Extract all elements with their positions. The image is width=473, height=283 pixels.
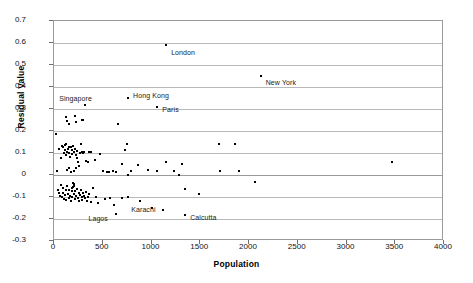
y-tick-label: 0.7 xyxy=(0,16,26,24)
y-tick-mark xyxy=(49,174,53,175)
y-tick-label: 0.3 xyxy=(0,104,26,112)
point-label-singapore: Singapore xyxy=(59,95,92,103)
data-point xyxy=(74,198,76,200)
x-axis-title: Population xyxy=(0,259,473,269)
x-tick-mark xyxy=(53,240,54,244)
data-point xyxy=(108,171,110,173)
x-tick-label: 3500 xyxy=(374,243,414,251)
data-point xyxy=(68,167,70,169)
data-point xyxy=(147,169,149,171)
y-tick-label: 0 xyxy=(0,170,26,178)
data-point xyxy=(64,194,66,196)
data-point xyxy=(90,151,92,153)
data-point xyxy=(86,200,88,202)
data-point xyxy=(92,187,94,189)
data-point xyxy=(78,200,80,202)
y-tick-label: -0.1 xyxy=(0,192,26,200)
gridline-y xyxy=(54,87,442,88)
data-point xyxy=(81,199,83,201)
gridline-y xyxy=(54,153,442,154)
x-tick-mark xyxy=(346,240,347,244)
data-point xyxy=(90,201,92,203)
x-tick-mark xyxy=(151,240,152,244)
data-point xyxy=(165,44,167,46)
y-tick-mark xyxy=(49,86,53,87)
data-point xyxy=(74,190,76,192)
x-tick-mark xyxy=(248,240,249,244)
data-point xyxy=(70,200,72,202)
data-point xyxy=(70,146,72,148)
data-point xyxy=(80,189,82,191)
data-point xyxy=(97,202,99,204)
data-point xyxy=(115,171,117,173)
data-point xyxy=(65,189,67,191)
x-tick-label: 3000 xyxy=(326,243,366,251)
data-point xyxy=(76,188,78,190)
data-point xyxy=(65,143,67,145)
y-tick-label: 0.4 xyxy=(0,82,26,90)
data-point xyxy=(84,104,86,106)
x-tick-label: 1000 xyxy=(131,243,171,251)
data-point xyxy=(68,152,70,154)
data-point xyxy=(58,148,60,150)
x-tick-label: 0 xyxy=(33,243,73,251)
data-point xyxy=(218,143,220,145)
data-point xyxy=(76,157,78,159)
y-tick-mark xyxy=(49,108,53,109)
y-tick-mark xyxy=(49,64,53,65)
data-point xyxy=(112,170,114,172)
data-point xyxy=(95,196,97,198)
data-point xyxy=(127,174,129,176)
data-point xyxy=(173,170,175,172)
data-point xyxy=(63,152,65,154)
gridline-y xyxy=(54,219,442,220)
y-tick-mark xyxy=(49,42,53,43)
data-point xyxy=(74,115,76,117)
data-point xyxy=(234,143,236,145)
data-point xyxy=(115,213,117,215)
y-tick-mark xyxy=(49,218,53,219)
y-tick-label: 0.1 xyxy=(0,148,26,156)
data-point xyxy=(126,143,128,145)
data-point xyxy=(73,183,75,185)
gridline-y xyxy=(54,109,442,110)
data-point xyxy=(87,161,89,163)
x-tick-mark xyxy=(199,240,200,244)
scatter-chart-figure: Residual Value LondonNew YorkHong KongSi… xyxy=(0,0,473,283)
point-label-paris: Paris xyxy=(162,106,178,114)
data-point xyxy=(82,119,84,121)
data-point xyxy=(260,75,262,77)
gridline-y xyxy=(54,175,442,176)
data-point xyxy=(65,116,67,118)
gridline-y xyxy=(54,65,442,66)
data-point xyxy=(70,171,72,173)
data-point xyxy=(73,170,75,172)
y-tick-mark xyxy=(49,196,53,197)
data-point xyxy=(71,187,73,189)
data-point xyxy=(55,133,57,135)
data-point xyxy=(165,161,167,163)
data-point xyxy=(99,153,101,155)
point-label-lagos: Lagos xyxy=(88,215,108,223)
data-point xyxy=(65,199,67,201)
y-tick-label: -0.3 xyxy=(0,236,26,244)
x-tick-label: 500 xyxy=(82,243,122,251)
data-point xyxy=(71,190,73,192)
y-tick-mark xyxy=(49,152,53,153)
point-label-calcutta: Calcutta xyxy=(190,214,216,222)
data-point xyxy=(162,209,164,211)
data-point xyxy=(181,163,183,165)
data-point xyxy=(78,165,80,167)
x-tick-mark xyxy=(443,240,444,244)
data-point xyxy=(76,150,78,152)
data-point xyxy=(75,121,77,123)
data-point xyxy=(75,167,77,169)
data-point xyxy=(60,157,62,159)
y-tick-label: 0.2 xyxy=(0,126,26,134)
y-tick-label: 0.6 xyxy=(0,38,26,46)
data-point xyxy=(94,159,96,161)
data-point xyxy=(88,193,90,195)
data-point xyxy=(66,169,68,171)
data-point xyxy=(62,146,64,148)
x-tick-label: 2500 xyxy=(277,243,317,251)
